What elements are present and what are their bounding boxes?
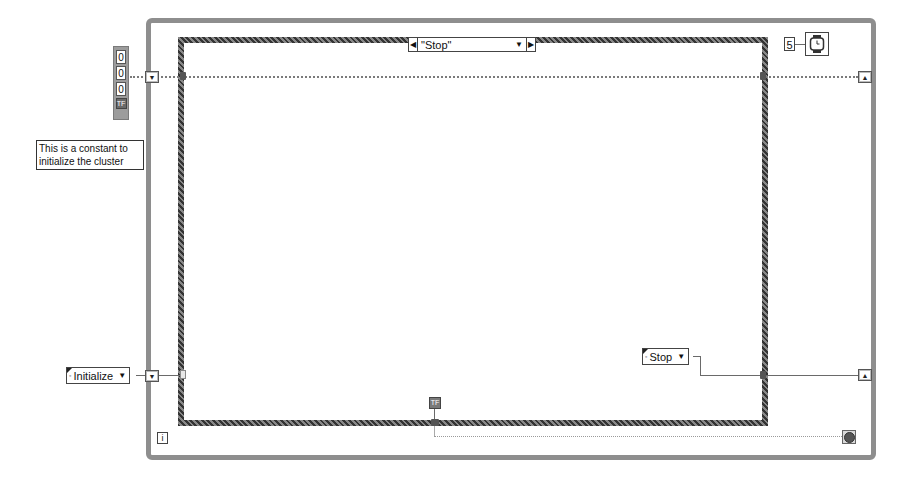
stop-sign-icon <box>844 432 855 443</box>
boolean-constant[interactable]: TF <box>116 98 127 109</box>
case-output-tunnel-boolean[interactable] <box>431 419 439 426</box>
wait-ms-constant[interactable]: 5 <box>784 37 795 51</box>
true-constant[interactable]: TF <box>429 397 441 409</box>
shift-register-right-bottom[interactable]: ▲ <box>858 369 872 381</box>
enum-corner-icon <box>643 349 648 354</box>
numeric-constant[interactable]: 0 <box>116 50 126 64</box>
shift-register-up-icon: ▲ <box>862 74 869 81</box>
loop-condition-terminal[interactable] <box>842 430 856 444</box>
chevron-down-icon[interactable]: ▼ <box>118 371 126 380</box>
enum-icon: ◦ <box>645 353 647 360</box>
stop-enum-label: Stop <box>649 351 672 363</box>
shift-register-up-icon: ▲ <box>862 372 869 379</box>
shift-register-right-top[interactable]: ▲ <box>858 71 872 83</box>
state-wire[interactable] <box>700 375 858 376</box>
case-input-tunnel-top[interactable] <box>180 72 186 80</box>
cluster-constant[interactable]: 0 0 0 TF <box>113 46 129 120</box>
numeric-constant[interactable]: 0 <box>116 82 126 96</box>
iteration-terminal: i <box>157 432 168 444</box>
case-selector[interactable]: ◀ "Stop" ▼ ▶ <box>408 37 536 52</box>
chevron-down-icon[interactable]: ▼ <box>515 40 526 49</box>
chevron-down-icon[interactable]: ▼ <box>677 352 685 361</box>
comment-label: This is a constant to initialize the clu… <box>36 140 144 170</box>
case-output-tunnel-top[interactable] <box>760 72 766 80</box>
enum-corner-icon <box>67 368 72 373</box>
enum-wire[interactable] <box>158 375 180 376</box>
numeric-constant[interactable]: 0 <box>116 66 126 80</box>
case-prev-arrow-icon[interactable]: ◀ <box>409 38 418 51</box>
stop-enum-constant[interactable]: ◦ Stop ▼ <box>642 348 689 365</box>
shift-register-down-icon: ▼ <box>149 373 156 380</box>
wait-ms-node[interactable] <box>805 32 829 56</box>
enum-icon: ◦ <box>69 372 71 379</box>
shift-register-left-top[interactable]: ▼ <box>145 71 159 83</box>
wristwatch-icon <box>809 35 825 53</box>
shift-register-left-bottom[interactable]: ▼ <box>145 370 159 382</box>
case-selector-label: "Stop" <box>418 39 515 51</box>
cluster-wire[interactable] <box>130 76 858 78</box>
wait-wire[interactable] <box>795 44 805 45</box>
boolean-wire[interactable] <box>434 426 435 436</box>
initialize-enum-label: Initialize <box>73 370 113 382</box>
case-input-tunnel-bottom[interactable] <box>180 370 186 379</box>
case-next-arrow-icon[interactable]: ▶ <box>526 38 535 51</box>
case-structure-frame[interactable] <box>178 37 768 426</box>
initialize-enum-constant[interactable]: ◦ Initialize ▼ <box>66 367 130 384</box>
shift-register-down-icon: ▼ <box>149 74 156 81</box>
boolean-wire[interactable] <box>434 436 842 437</box>
case-output-tunnel-bottom[interactable] <box>760 371 766 379</box>
state-wire[interactable] <box>700 356 701 376</box>
